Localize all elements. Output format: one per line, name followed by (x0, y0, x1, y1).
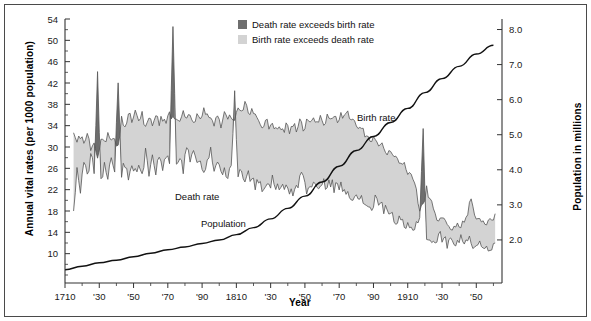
legend-swatch (238, 35, 247, 44)
svg-text:'30: '30 (436, 291, 448, 302)
svg-text:'50: '50 (299, 291, 311, 302)
chart-figure: Annual vital rates (per 1000 population)… (0, 0, 591, 321)
legend-item: Birth rate exceeds death rate (238, 34, 374, 45)
svg-text:'30: '30 (264, 291, 276, 302)
svg-text:1910: 1910 (397, 291, 418, 302)
svg-text:5.0: 5.0 (509, 129, 522, 140)
birth-rate-annotation: Birth rate (357, 112, 396, 123)
chart-frame: Annual vital rates (per 1000 population)… (4, 4, 587, 317)
svg-text:46: 46 (47, 56, 58, 67)
svg-text:8.0: 8.0 (509, 24, 522, 35)
population-annotation: Population (201, 218, 246, 229)
svg-text:'90: '90 (196, 291, 208, 302)
svg-text:'30: '30 (93, 291, 105, 302)
series-layer (65, 27, 495, 270)
svg-text:3.0: 3.0 (509, 199, 522, 210)
svg-text:26: 26 (47, 163, 58, 174)
legend-swatch (238, 20, 247, 29)
chart-plot-area: 1014182226303438424650542.03.04.05.06.07… (5, 5, 588, 318)
legend-item: Death rate exceeds birth rate (238, 19, 375, 30)
svg-text:'50: '50 (470, 291, 482, 302)
svg-text:18: 18 (47, 206, 58, 217)
svg-text:'70: '70 (333, 291, 345, 302)
legend-label: Death rate exceeds birth rate (252, 19, 375, 30)
svg-text:6.0: 6.0 (509, 94, 522, 105)
svg-text:30: 30 (47, 142, 58, 153)
svg-text:7.0: 7.0 (509, 59, 522, 70)
svg-text:1810: 1810 (226, 291, 247, 302)
svg-text:34: 34 (47, 120, 58, 131)
svg-text:2.0: 2.0 (509, 234, 522, 245)
chart-legend: Death rate exceeds birth rateBirth rate … (238, 19, 375, 45)
svg-text:42: 42 (47, 78, 58, 89)
svg-text:'90: '90 (367, 291, 379, 302)
svg-text:'70: '70 (162, 291, 174, 302)
svg-text:14: 14 (47, 227, 58, 238)
svg-text:22: 22 (47, 184, 58, 195)
svg-text:4.0: 4.0 (509, 164, 522, 175)
svg-text:'50: '50 (127, 291, 139, 302)
svg-text:1710: 1710 (54, 291, 75, 302)
svg-text:10: 10 (47, 248, 58, 259)
legend-label: Birth rate exceeds death rate (252, 34, 374, 45)
svg-text:50: 50 (47, 35, 58, 46)
svg-text:54: 54 (47, 14, 58, 25)
svg-text:38: 38 (47, 99, 58, 110)
death-rate-annotation: Death rate (175, 191, 219, 202)
